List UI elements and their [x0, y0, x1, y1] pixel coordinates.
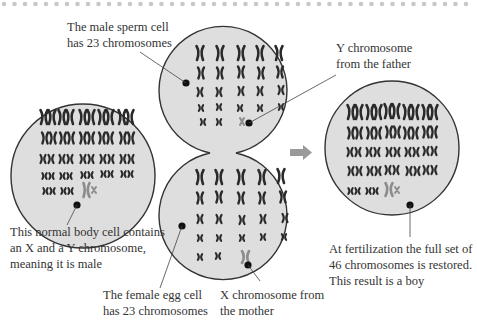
label-sperm-cell: The male sperm cell has 23 chromosomes	[67, 19, 172, 51]
zygote-cell	[325, 81, 459, 237]
label-fertilization: At fertilization the full set of 46 chro…	[329, 241, 472, 289]
label-body-cell: This normal body cell contains an X and …	[10, 224, 165, 272]
sperm-and-egg-cells	[159, 26, 287, 279]
label-egg-cell: The female egg cell has 23 chromosomes	[103, 287, 208, 319]
label-y-chromosome: Y chromosome from the father	[336, 40, 412, 72]
arrow-right-icon	[290, 145, 312, 160]
label-x-chromosome: X chromosome from the mother	[220, 287, 324, 319]
